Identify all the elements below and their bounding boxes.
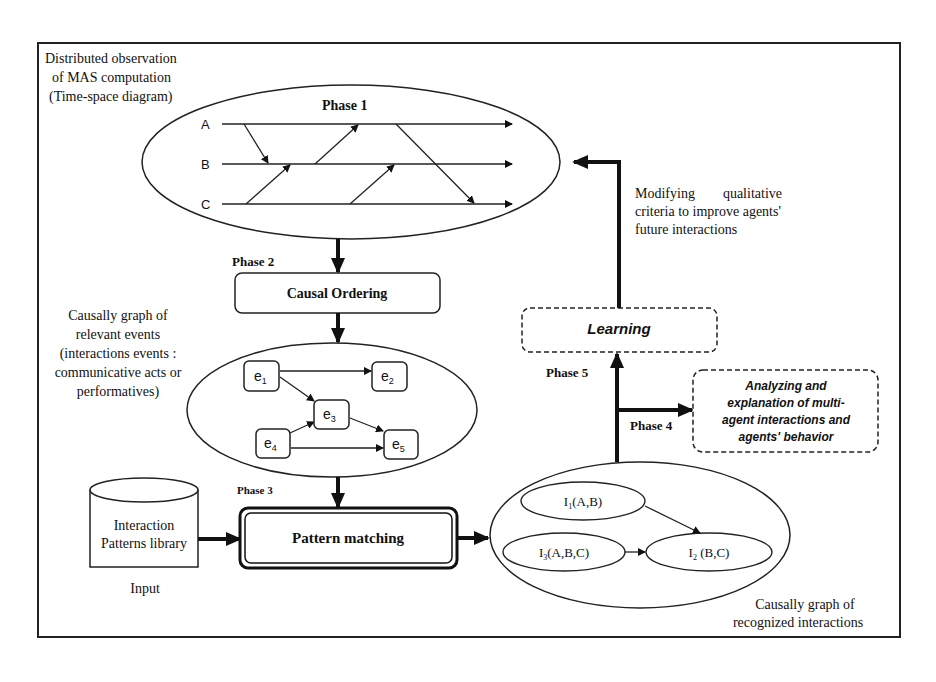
svg-text:explanation of multi-: explanation of multi- xyxy=(727,396,844,410)
edge-e3-e5 xyxy=(350,418,383,431)
phase5-label: Phase 5 xyxy=(546,365,589,380)
pattern-matching-box: Pattern matching xyxy=(240,508,457,568)
message-a-to-b-1 xyxy=(244,124,268,163)
svg-text:Pattern matching: Pattern matching xyxy=(292,530,405,546)
svg-text:Patterns library: Patterns library xyxy=(101,536,187,551)
svg-text:Interaction: Interaction xyxy=(114,518,175,533)
time-space-lanes: A B C xyxy=(201,117,210,212)
svg-text:Causally graph of: Causally graph of xyxy=(755,597,855,612)
message-b-to-a xyxy=(315,125,358,164)
event-node-e4: e4 xyxy=(256,429,290,458)
message-c-to-b-2 xyxy=(350,165,394,204)
svg-text:I3(A,B,C): I3(A,B,C) xyxy=(539,545,589,562)
causal-ordering-label: Causal Ordering xyxy=(287,286,388,301)
event-node-e5: e5 xyxy=(384,430,418,459)
feedback-label: Modifying qualitative criteria to improv… xyxy=(635,186,782,237)
svg-text:of MAS computation: of MAS computation xyxy=(52,70,171,85)
svg-text:A: A xyxy=(201,117,210,132)
svg-text:agents' behavior: agents' behavior xyxy=(739,430,835,444)
analyzing-box: Analyzing and explanation of multi- agen… xyxy=(693,370,878,452)
interaction-node-i1: I1(A,B) xyxy=(521,482,645,520)
svg-text:relevant events: relevant events xyxy=(76,327,160,342)
svg-text:C: C xyxy=(201,197,210,212)
interaction-graph-label: Causally graph of recognized interaction… xyxy=(733,597,863,630)
event-node-e2: e2 xyxy=(372,362,407,391)
phase2-label: Phase 2 xyxy=(232,254,274,269)
event-graph-label: Causally graph of relevant events (inter… xyxy=(55,308,182,400)
svg-text:Learning: Learning xyxy=(587,320,650,337)
svg-text:Causally graph of: Causally graph of xyxy=(68,308,168,323)
phase1-label: Phase 1 xyxy=(322,98,368,113)
phase4-label: Phase 4 xyxy=(630,418,673,433)
interaction-node-i2: I2 (B,C) xyxy=(646,533,772,571)
interaction-patterns-library: Interaction Patterns library xyxy=(90,478,198,567)
feedback-arrow xyxy=(574,162,619,308)
edge-e1-e3 xyxy=(280,377,314,401)
svg-text:B: B xyxy=(201,157,210,172)
svg-text:recognized interactions: recognized interactions xyxy=(733,615,863,630)
svg-text:Modifying qualitative: Modifying qualitative xyxy=(635,186,782,201)
learning-box: Learning xyxy=(522,308,717,352)
message-c-to-b-1 xyxy=(246,165,290,204)
event-node-e3: e3 xyxy=(314,400,349,429)
svg-text:(interactions events :: (interactions events : xyxy=(60,346,177,362)
svg-text:future interactions: future interactions xyxy=(635,222,737,237)
edge-i1-i2 xyxy=(645,506,700,533)
svg-text:(Time-space diagram): (Time-space diagram) xyxy=(49,89,173,105)
mas-interaction-diagram: Distributed observation of MAS computati… xyxy=(0,0,936,682)
interaction-node-i3: I3(A,B,C) xyxy=(503,533,625,571)
edge-e4-e3 xyxy=(290,422,314,433)
svg-text:Analyzing and: Analyzing and xyxy=(744,379,827,393)
svg-text:Distributed observation: Distributed observation xyxy=(45,51,177,66)
svg-text:agent interactions and: agent interactions and xyxy=(722,413,851,427)
input-caption: Input xyxy=(130,581,160,596)
svg-text:communicative acts or: communicative acts or xyxy=(55,365,182,380)
time-space-label: Distributed observation of MAS computati… xyxy=(45,51,177,105)
svg-text:criteria to improve agents': criteria to improve agents' xyxy=(635,204,781,219)
phase3-label: Phase 3 xyxy=(237,484,273,496)
event-node-e1: e1 xyxy=(244,361,279,391)
svg-text:performatives): performatives) xyxy=(77,384,160,400)
